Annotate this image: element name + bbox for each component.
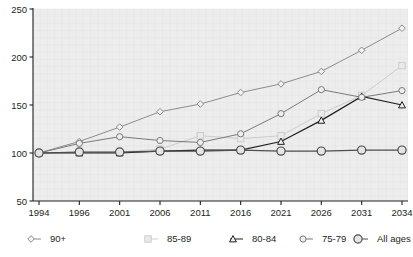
legend: 90+85-8980-8475-79All ages <box>28 233 411 244</box>
legend-label: 85-89 <box>167 233 191 244</box>
data-point <box>399 62 405 68</box>
data-point <box>196 147 204 155</box>
x-tick-label: 2006 <box>149 207 170 218</box>
x-tick-label: 1994 <box>28 207 49 218</box>
y-axis: 50100150200250 <box>11 4 33 207</box>
data-point <box>116 148 124 156</box>
legend-marker-icon <box>145 236 151 242</box>
data-point <box>157 137 163 143</box>
x-tick-label: 2016 <box>230 207 251 218</box>
x-tick-label: 2021 <box>270 207 291 218</box>
data-point <box>156 147 164 155</box>
legend-label: All ages <box>377 233 411 244</box>
x-tick-label: 1996 <box>69 207 90 218</box>
data-point <box>238 131 244 137</box>
legend-item-85-89[interactable]: 85-89 <box>145 233 192 244</box>
legend-label: 75-79 <box>322 233 346 244</box>
y-tick-label: 250 <box>11 4 27 15</box>
y-tick-label: 50 <box>16 196 27 207</box>
x-tick-label: 2001 <box>109 207 130 218</box>
legend-item-90-[interactable]: 90+ <box>28 233 67 244</box>
legend-label: 80-84 <box>252 233 276 244</box>
data-point <box>318 87 324 93</box>
legend-item-75-79[interactable]: 75-79 <box>300 233 346 244</box>
data-point <box>317 147 325 155</box>
legend-marker-icon <box>300 236 306 242</box>
legend-marker-icon <box>28 236 35 243</box>
data-point <box>399 88 405 94</box>
data-point <box>76 140 82 146</box>
legend-marker-icon <box>354 235 362 243</box>
data-point <box>117 134 123 140</box>
data-point <box>277 147 285 155</box>
data-point <box>35 149 43 157</box>
legend-item-all-ages[interactable]: All ages <box>354 233 411 244</box>
data-point <box>278 111 284 117</box>
x-tick-label: 2011 <box>190 207 210 218</box>
y-tick-label: 150 <box>11 100 27 111</box>
data-point <box>398 146 406 154</box>
y-tick-label: 100 <box>11 148 27 159</box>
chart-figure: 5010015020025019941996200120062011201620… <box>0 0 413 257</box>
x-tick-label: 2026 <box>311 207 332 218</box>
data-point <box>359 94 365 100</box>
x-axis: 1994199620012006201120162021202620312034 <box>28 201 412 218</box>
x-tick-label: 2031 <box>351 207 372 218</box>
x-tick-label: 2034 <box>391 207 412 218</box>
data-point <box>75 148 83 156</box>
legend-label: 90+ <box>50 233 67 244</box>
y-tick-label: 200 <box>11 52 27 63</box>
data-point <box>318 110 324 116</box>
data-point <box>197 133 203 139</box>
data-point <box>358 146 366 154</box>
line-chart: 5010015020025019941996200120062011201620… <box>0 0 413 257</box>
data-point <box>237 146 245 154</box>
data-point <box>197 139 203 145</box>
legend-item-80-84[interactable]: 80-84 <box>230 233 277 244</box>
